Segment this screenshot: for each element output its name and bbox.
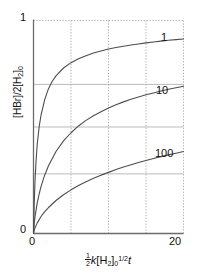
x-title-time-t: t — [128, 254, 131, 266]
y-title-subscript-two: 2 — [17, 73, 24, 77]
y-axis-title: [HBr]/2[H2]0 — [7, 32, 21, 152]
curve-label-ratio-1: 1 — [161, 32, 167, 43]
x-axis-title: 12k[H2]01/2t — [33, 250, 183, 268]
y-title-species-hbr: HBr — [12, 98, 23, 115]
chart-figure: 1 0 0 20 [HBr]/2[H2]0 12k[H2]01/2t 1 10 … — [0, 0, 202, 275]
y-title-open-bracket: [ — [12, 115, 23, 118]
curve-label-ratio-10: 10 — [156, 85, 168, 96]
x-axis-title-text: 12k[H2]01/2t — [85, 254, 131, 266]
x-title-exponent-one-half: 1/2 — [118, 255, 128, 262]
y-axis-tick-bottom: 0 — [20, 224, 26, 235]
y-title-close-bracket: ] — [12, 95, 23, 98]
y-title-species-h: H — [12, 77, 23, 84]
chart-plot-svg — [0, 0, 202, 275]
x-axis-tick-max: 20 — [169, 236, 181, 247]
y-title-subscript-zero: 0 — [17, 66, 24, 70]
y-axis-title-text: [HBr]/2[H2]0 — [12, 66, 23, 118]
x-axis-tick-zero: 0 — [29, 236, 35, 247]
curve-label-ratio-100: 100 — [155, 148, 173, 159]
y-axis-tick-top: 1 — [20, 12, 26, 23]
y-title-close-bracket-2: ] — [12, 70, 23, 73]
y-title-slash-two-open: /2[ — [12, 84, 23, 95]
